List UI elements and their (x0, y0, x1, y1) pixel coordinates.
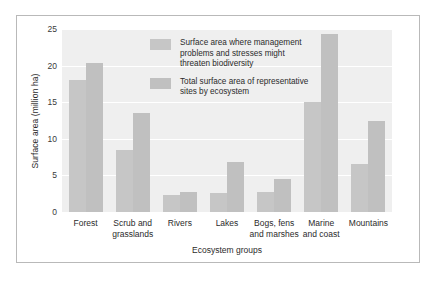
bar (257, 192, 274, 212)
bar (133, 113, 150, 212)
y-axis-tick-label: 25 (48, 25, 57, 34)
legend-item: Surface area where managementproblems an… (150, 38, 365, 70)
x-axis-tick-label: Lakes (216, 218, 239, 229)
x-axis-tick-label-line: and coast (303, 229, 340, 240)
x-axis-tick-label-line: Lakes (216, 218, 239, 229)
y-axis-tick-label: 10 (48, 135, 57, 144)
x-axis-tick-label-line: Bogs, fens (250, 218, 299, 229)
bar (368, 121, 385, 212)
legend-label-line: Total surface area of representative (180, 77, 308, 88)
x-axis-tick-label-line: and marshes (250, 229, 299, 240)
legend-item: Total surface area of representativesite… (150, 77, 365, 98)
bar (227, 162, 244, 212)
chart-figure: Surface area (million ha) 0510152025 For… (0, 0, 438, 281)
legend-swatch (150, 78, 171, 89)
bar (86, 63, 103, 212)
bar (69, 80, 86, 212)
bar (304, 102, 321, 212)
x-axis-tick-label: Bogs, fensand marshes (250, 218, 299, 239)
y-axis-tick-label: 20 (48, 61, 57, 70)
y-axis-tick-label: 0 (52, 208, 57, 217)
bar (351, 164, 368, 212)
bar-group: Forest (62, 29, 109, 212)
legend-label: Total surface area of representativesite… (180, 77, 308, 98)
bar (210, 193, 227, 212)
x-axis-tick-label: Forest (74, 218, 98, 229)
legend-label-line: problems and stresses might (180, 49, 302, 60)
x-axis-tick-label: Marineand coast (303, 218, 340, 239)
legend-label: Surface area where managementproblems an… (180, 38, 302, 70)
x-axis-title: Ecosystem groups (62, 245, 392, 255)
legend-label-line: sites by ecosystem (180, 87, 308, 98)
bar (163, 195, 180, 212)
x-axis-tick-label-line: grasslands (112, 229, 153, 240)
x-axis-tick-label: Mountains (349, 218, 388, 229)
x-axis-tick-label-line: Forest (74, 218, 98, 229)
y-axis-title: Surface area (million ha) (28, 29, 42, 212)
x-axis-tick-label-line: Scrub and (112, 218, 153, 229)
legend-label-line: Surface area where management (180, 38, 302, 49)
x-axis-tick-label-line: Mountains (349, 218, 388, 229)
chart-legend: Surface area where managementproblems an… (150, 38, 365, 105)
bar (116, 150, 133, 212)
x-axis-tick-label-line: Rivers (168, 218, 192, 229)
legend-label-line: threaten biodiversity (180, 59, 302, 70)
bar (180, 192, 197, 212)
y-axis-tick-label: 15 (48, 98, 57, 107)
legend-swatch (150, 39, 171, 50)
x-axis-tick-label: Rivers (168, 218, 192, 229)
bar (274, 179, 291, 212)
x-axis-tick-label-line: Marine (303, 218, 340, 229)
x-axis-tick-label: Scrub andgrasslands (112, 218, 153, 239)
y-axis-title-text: Surface area (million ha) (30, 73, 40, 168)
y-axis-tick-label: 5 (52, 171, 57, 180)
